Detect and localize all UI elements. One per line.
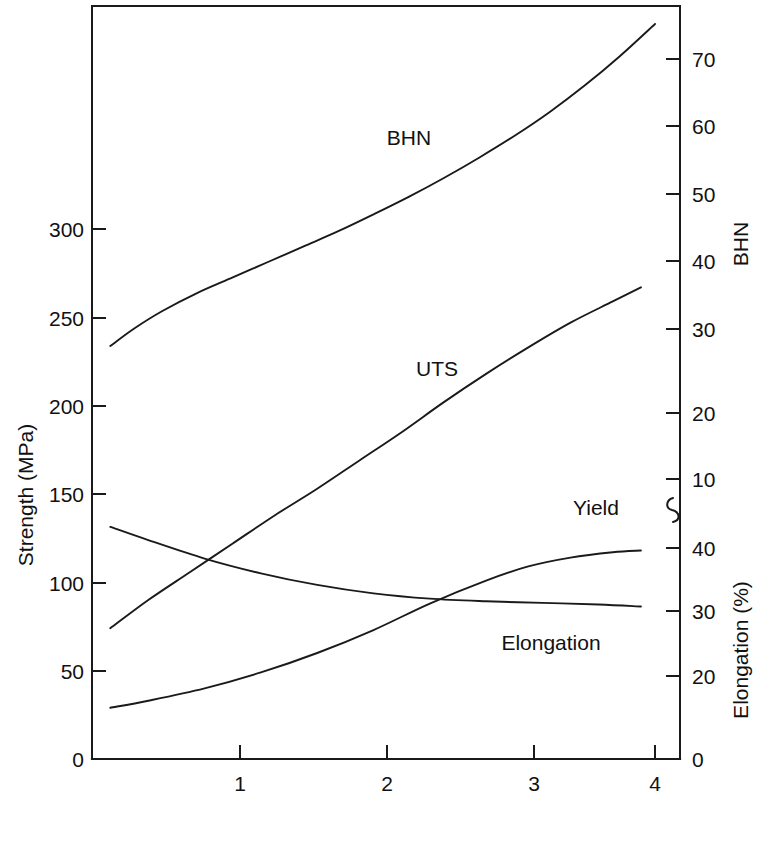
series-curve-uts (110, 287, 641, 628)
left-tick-label-150: 150 (49, 483, 84, 506)
right-tick-label-bhn-70: 70 (692, 48, 715, 71)
curve-label-uts: UTS (416, 357, 458, 380)
right-tick-label-elong-40: 40 (692, 537, 715, 560)
right-tick-label-elong-30: 30 (692, 600, 715, 623)
right-axis-lower-tick-labels: 40 30 20 0 (692, 537, 715, 771)
chart-svg: 0 50 100 150 200 250 300 Strength (MPa) … (0, 0, 775, 845)
x-tick-label-3: 3 (528, 772, 540, 795)
right-axis-lower-title: Elongation (%) (729, 581, 752, 719)
left-tick-label-100: 100 (49, 572, 84, 595)
left-axis-tick-labels: 0 50 100 150 200 250 300 (49, 218, 84, 771)
left-tick-label-300: 300 (49, 218, 84, 241)
curve-label-yield: Yield (573, 496, 619, 519)
left-tick-label-200: 200 (49, 395, 84, 418)
curve-label-elongation: Elongation (501, 631, 600, 654)
curve-label-bhn: BHN (387, 126, 431, 149)
right-tick-label-bhn-60: 60 (692, 115, 715, 138)
right-tick-label-bhn-10: 10 (692, 468, 715, 491)
right-tick-label-elong-20: 20 (692, 665, 715, 688)
right-axis-upper-ticks (666, 59, 680, 479)
x-axis-title: Mg (%) (352, 808, 420, 831)
right-axis-upper-tick-labels: 70 60 50 40 30 20 10 (692, 48, 715, 491)
chart-figure: 0 50 100 150 200 250 300 Strength (MPa) … (0, 0, 775, 845)
right-tick-label-bhn-50: 50 (692, 183, 715, 206)
right-tick-label-bhn-30: 30 (692, 318, 715, 341)
left-tick-label-250: 250 (49, 307, 84, 330)
left-tick-label-0: 0 (72, 748, 84, 771)
right-axis-upper-title: BHN (729, 222, 752, 266)
left-axis-title: Strength (MPa) (14, 424, 37, 566)
left-tick-label-50: 50 (61, 660, 84, 683)
x-axis-tick-labels: 1 2 3 4 (234, 772, 661, 795)
x-axis-ticks (240, 745, 655, 759)
series-curve-yield (110, 551, 641, 708)
left-axis-ticks (92, 229, 106, 759)
x-tick-label-4: 4 (649, 772, 661, 795)
right-axis-lower-ticks (666, 548, 680, 759)
right-tick-label-bhn-20: 20 (692, 402, 715, 425)
data-curves (110, 24, 655, 708)
right-tick-label-elong-0: 0 (692, 748, 704, 771)
series-curve-bhn (110, 24, 655, 346)
right-tick-label-bhn-40: 40 (692, 250, 715, 273)
x-tick-label-2: 2 (381, 772, 393, 795)
axis-break-icon (667, 498, 678, 522)
series-curve-elongation (110, 527, 641, 607)
x-tick-label-1: 1 (234, 772, 246, 795)
